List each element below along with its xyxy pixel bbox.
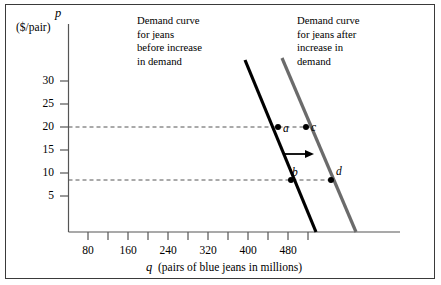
y-axis-label: ($/pair) — [16, 21, 50, 35]
x-axis-label: (pairs of blue jeans in millions) — [158, 261, 302, 275]
x-tick-label-160: 160 — [113, 244, 143, 258]
demand-before-annotation: Demand curve for jeans before increase i… — [137, 14, 202, 69]
y-tick-label-25: 25 — [24, 97, 54, 111]
x-tick-label-80: 80 — [73, 244, 103, 258]
y-axis-symbol: p — [55, 6, 61, 21]
demand-curve-figure: p ($/pair) 30 25 20 15 10 5 80 160 240 3… — [0, 0, 441, 285]
y-tick-label-30: 30 — [24, 74, 54, 88]
x-tick-label-320: 320 — [193, 244, 223, 258]
x-axis-ticks — [88, 232, 308, 240]
point-c-marker — [303, 124, 309, 130]
y-axis-ticks — [60, 81, 69, 196]
x-tick-label-480: 480 — [273, 244, 303, 258]
point-d-label: d — [336, 165, 342, 179]
y-tick-label-20: 20 — [24, 120, 54, 134]
point-d-marker — [328, 177, 334, 183]
y-tick-label-15: 15 — [24, 143, 54, 157]
x-tick-label-400: 400 — [233, 244, 263, 258]
point-b-label: b — [292, 166, 298, 180]
shift-arrow-icon — [285, 150, 314, 158]
point-c-label: c — [311, 121, 316, 135]
demand-after-annotation: Demand curve for jeans after increase in… — [297, 14, 360, 69]
plot-canvas — [0, 0, 441, 285]
demand-curve-before — [245, 60, 316, 232]
point-a-marker — [275, 124, 281, 130]
y-tick-label-5: 5 — [24, 189, 54, 203]
x-tick-label-240: 240 — [153, 244, 183, 258]
x-axis-symbol: q — [146, 260, 152, 275]
y-tick-label-10: 10 — [24, 166, 54, 180]
point-a-label: a — [283, 122, 289, 136]
demand-curve-after — [282, 58, 356, 232]
